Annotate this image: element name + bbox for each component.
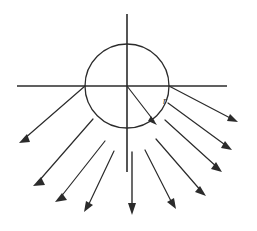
downward-arrow-head — [128, 203, 136, 215]
ray-left-1 — [19, 86, 85, 143]
radius-label: r — [163, 95, 167, 106]
ray-right-1 — [145, 150, 176, 209]
ray-arrow-head — [195, 186, 206, 196]
ray-arrow-head — [167, 198, 176, 209]
ray-center — [128, 152, 136, 215]
radial-field-diagram: r — [0, 0, 257, 231]
ray-arrow-head — [227, 114, 238, 122]
ray-arrow-head — [33, 177, 45, 186]
ray-right-5 — [169, 86, 238, 122]
ray-shaft — [145, 150, 173, 205]
ray-right-3 — [165, 120, 222, 172]
ray-shaft — [165, 120, 218, 168]
diagram-canvas: r — [0, 0, 257, 231]
ray-shaft — [169, 86, 234, 120]
ray-shaft — [38, 119, 93, 182]
ray-left-2 — [33, 119, 93, 186]
radius-arrow-shaft — [127, 86, 154, 121]
ray-left-4 — [84, 151, 114, 212]
ray-left-3 — [55, 141, 105, 202]
ray-shaft — [168, 103, 228, 147]
ray-arrow-head — [55, 193, 67, 202]
radius-arrow — [127, 86, 157, 125]
ray-right-4 — [168, 103, 232, 150]
ray-arrow-head — [84, 201, 93, 212]
ray-shaft — [24, 86, 85, 139]
